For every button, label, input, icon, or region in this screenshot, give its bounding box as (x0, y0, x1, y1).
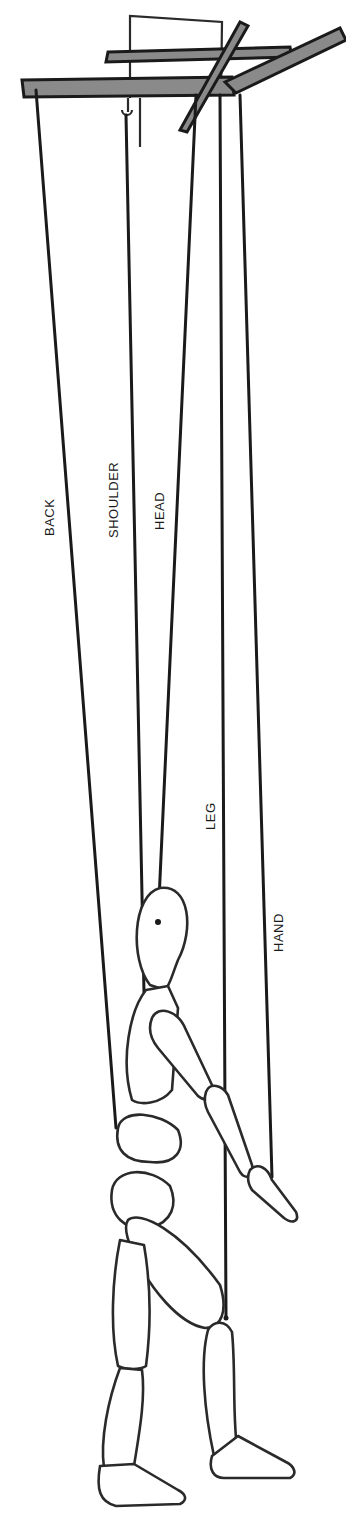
label-leg: LEG (203, 802, 218, 830)
puppet-head (137, 888, 188, 990)
hand-string (240, 95, 272, 1177)
puppet-shin-front (204, 1323, 238, 1456)
puppet-thigh-back (113, 1240, 150, 1369)
label-back: BACK (42, 499, 57, 536)
label-head: HEAD (152, 492, 167, 530)
puppet-shin-back (103, 1368, 143, 1468)
label-shoulder: SHOULDER (106, 462, 121, 538)
marionette-diagram (0, 0, 346, 1524)
control-bar (22, 16, 346, 147)
shoulder-string (126, 115, 144, 993)
puppet-forearm (205, 1086, 253, 1177)
puppet-hip-upper (117, 1115, 180, 1163)
puppet-foot-back (99, 1464, 186, 1506)
label-hand: HAND (271, 913, 286, 952)
back-string (36, 90, 116, 1128)
